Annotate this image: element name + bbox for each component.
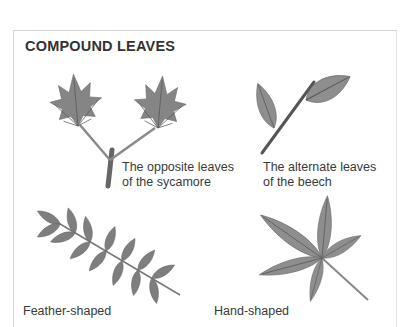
beech-caption-line1: The alternate leaves [263,160,376,175]
sycamore-caption-line2: of the sycamore [122,175,234,190]
beech-caption: The alternate leaves of the beech [263,160,376,190]
beech-caption-line2: of the beech [263,175,376,190]
sycamore-caption: The opposite leaves of the sycamore [122,160,234,190]
sycamore-caption-line1: The opposite leaves [122,160,234,175]
beech-illustration [250,67,355,153]
hand-caption: Hand-shaped [214,304,289,319]
feather-caption: Feather-shaped [23,304,111,319]
hand-illustration [256,195,368,303]
feather-illustration [35,207,180,305]
